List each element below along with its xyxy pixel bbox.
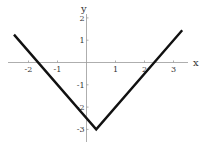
- axes: [8, 14, 188, 142]
- x-tick-label: 3: [171, 65, 176, 74]
- plot-line: [14, 30, 182, 129]
- y-tick-label: -3: [77, 125, 85, 134]
- y-tick-label: 2: [79, 14, 84, 23]
- function-line: [14, 30, 182, 129]
- chart: -2-112321-1-2-3 x y: [0, 0, 209, 149]
- y-tick-label: 1: [79, 36, 84, 45]
- x-tick-label: -2: [25, 65, 33, 74]
- y-tick-label: -1: [77, 81, 85, 90]
- x-tick-label: -1: [54, 65, 62, 74]
- x-axis-label: x: [193, 57, 199, 68]
- y-axis-label: y: [80, 3, 87, 14]
- x-tick-label: 1: [113, 65, 118, 74]
